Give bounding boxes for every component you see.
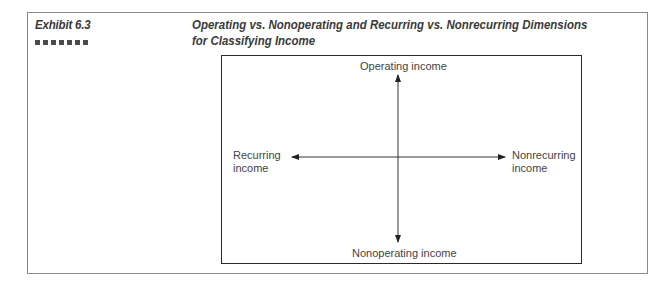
nonoperating-income-label: Nonoperating income	[352, 247, 457, 260]
nonrecurring-income-label: Nonrecurring income	[512, 149, 576, 175]
nonrecurring-label-line-2: income	[512, 162, 576, 175]
recurring-income-label: Recurring income	[233, 149, 281, 175]
axes-arrows	[0, 0, 671, 289]
operating-income-label: Operating income	[360, 60, 447, 73]
nonrecurring-label-line-1: Nonrecurring	[512, 149, 576, 162]
recurring-label-line-2: income	[233, 162, 281, 175]
recurring-label-line-1: Recurring	[233, 149, 281, 162]
